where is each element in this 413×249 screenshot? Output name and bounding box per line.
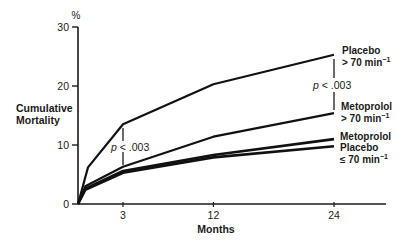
svg-text:> 70 min−1: > 70 min−1	[341, 112, 389, 124]
x-axis: 31224	[78, 202, 386, 221]
y-tick-label: 30	[57, 21, 69, 33]
svg-text:Placebo: Placebo	[340, 142, 378, 153]
p-value: < .003	[117, 141, 150, 153]
x-tick-label: 3	[120, 209, 126, 221]
legend-metoprolol-gt70: Metoprolol > 70 min−1	[341, 101, 392, 124]
y-axis-label-line2: Mortality	[16, 114, 60, 126]
svg-text:≤ 70 min−1: ≤ 70 min−1	[340, 153, 388, 165]
x-tick-label: 24	[328, 209, 340, 221]
y-tick-label: 20	[57, 80, 69, 92]
legend-metoprolol-le70: Metoprolol	[340, 131, 391, 142]
x-tick-label: 12	[208, 209, 220, 221]
svg-text:> 70 min−1: > 70 min−1	[342, 56, 390, 68]
svg-text:p < .003: p < .003	[312, 79, 351, 91]
svg-text:p < .003: p < .003	[110, 141, 149, 153]
svg-text:Metoprolol: Metoprolol	[340, 131, 391, 142]
y-tick-label: 0	[63, 198, 69, 210]
x-axis-label: Months	[197, 223, 234, 235]
cumulative-mortality-chart: 0102030 31224 % Cumulative Mortality Mon…	[0, 0, 413, 249]
svg-text:Placebo: Placebo	[342, 45, 380, 56]
series-lines	[78, 55, 334, 204]
series-line-0	[78, 55, 334, 204]
y-axis: 0102030	[57, 21, 78, 210]
y-axis-label-line1: Cumulative	[16, 102, 73, 114]
y-tick-label: 10	[57, 139, 69, 151]
y-unit-label: %	[72, 10, 81, 21]
svg-text:Metoprolol: Metoprolol	[341, 101, 392, 112]
p-value: < .003	[319, 79, 352, 91]
legend-placebo-le70: Placebo ≤ 70 min−1	[340, 142, 388, 165]
series-line-3	[78, 146, 334, 204]
legend-placebo-gt70: Placebo > 70 min−1	[342, 45, 390, 68]
